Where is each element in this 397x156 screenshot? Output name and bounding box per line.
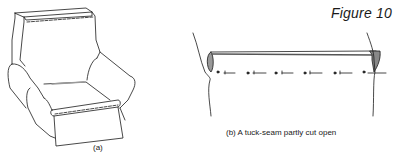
caption-b: (b) A tuck-seam partly cut open bbox=[226, 128, 336, 137]
tuck-seam-illustration bbox=[0, 0, 397, 156]
